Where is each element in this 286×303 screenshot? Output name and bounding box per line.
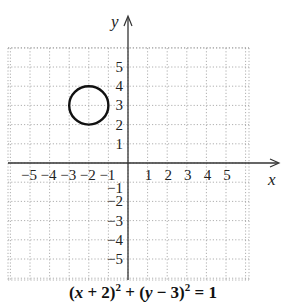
x-tick-label: −3 bbox=[60, 167, 76, 183]
coordinate-plane: −5−4−3−2−11234554321−1−2−3−4−5 x y bbox=[0, 0, 286, 303]
x-tick-label: 1 bbox=[145, 167, 153, 183]
y-tick-label: 2 bbox=[116, 117, 124, 133]
y-tick-label: −3 bbox=[107, 213, 123, 229]
y-tick-label: −4 bbox=[107, 232, 123, 248]
equation-caption: (x + 2)2 + (y − 3)2 = 1 bbox=[0, 281, 286, 303]
x-tick-label: 2 bbox=[164, 167, 172, 183]
y-tick-label: 1 bbox=[116, 136, 124, 152]
x-tick-label: −5 bbox=[21, 167, 37, 183]
x-tick-label: 5 bbox=[223, 167, 231, 183]
x-tick-label: −4 bbox=[41, 167, 57, 183]
y-tick-label: 3 bbox=[116, 97, 124, 113]
x-tick-label: 4 bbox=[204, 167, 212, 183]
y-tick-label: −2 bbox=[107, 193, 123, 209]
y-tick-label: −5 bbox=[107, 251, 123, 267]
x-tick-label: 3 bbox=[184, 167, 192, 183]
y-tick-label: 5 bbox=[116, 59, 124, 75]
axes bbox=[8, 16, 279, 280]
x-axis-label: x bbox=[267, 170, 276, 189]
y-tick-label: 4 bbox=[116, 78, 124, 94]
x-tick-label: −2 bbox=[80, 167, 96, 183]
y-axis-label: y bbox=[109, 12, 119, 31]
